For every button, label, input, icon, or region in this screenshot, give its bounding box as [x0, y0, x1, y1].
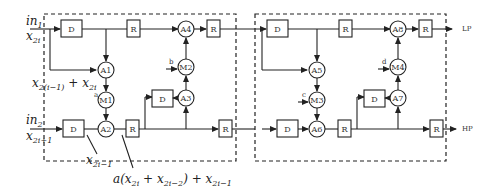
svg-text:A3: A3	[180, 94, 192, 103]
svg-text:R: R	[129, 125, 136, 134]
coefficient-d: d	[382, 58, 387, 66]
input-2-signal: x2i+1	[26, 129, 52, 145]
svg-text:R: R	[130, 25, 137, 34]
coefficient-a: a	[94, 91, 98, 99]
delay-label: D	[68, 25, 74, 34]
svg-text:R: R	[433, 125, 440, 134]
coefficient-c: c	[302, 91, 306, 99]
svg-text:D: D	[70, 125, 76, 134]
coefficient-b: b	[169, 58, 174, 66]
output-lp: LP	[462, 25, 472, 33]
annotation-d-output: x2i−1	[86, 153, 112, 169]
svg-text:M4: M4	[391, 63, 404, 72]
svg-text:A7: A7	[392, 94, 404, 103]
input-2-name: in2	[26, 113, 43, 129]
input-1-name: in1	[26, 14, 43, 30]
svg-text:R: R	[342, 25, 349, 34]
output-hp: HP	[462, 125, 473, 133]
annotation-a1-output: x2(i−1) + x2i	[32, 76, 97, 92]
svg-text:A8: A8	[392, 25, 404, 34]
svg-text:A2: A2	[100, 125, 112, 134]
svg-text:D: D	[159, 95, 165, 104]
svg-text:D: D	[371, 95, 377, 104]
input-1-signal: x2i	[26, 29, 41, 45]
pointer-line-a2-output	[122, 135, 133, 168]
annotation-a2-output: a(x2i + x2i−2) + x2i−1	[113, 172, 232, 188]
svg-text:D: D	[284, 125, 290, 134]
svg-text:M1: M1	[99, 96, 112, 105]
svg-text:R: R	[222, 125, 229, 134]
pointer-line-d-output	[87, 135, 97, 154]
svg-text:R: R	[341, 125, 348, 134]
svg-text:M2: M2	[179, 63, 192, 72]
svg-text:D: D	[274, 25, 280, 34]
svg-text:M3: M3	[310, 96, 323, 105]
svg-text:A6: A6	[311, 125, 323, 134]
svg-text:A5: A5	[311, 66, 323, 75]
svg-text:A1: A1	[100, 66, 112, 75]
lifting-architecture-diagram: D R A4 R A1 M1 a A2 D R R D A3 M2 b	[0, 0, 497, 193]
svg-text:R: R	[210, 25, 217, 34]
svg-text:A4: A4	[180, 25, 192, 34]
svg-text:R: R	[422, 25, 429, 34]
